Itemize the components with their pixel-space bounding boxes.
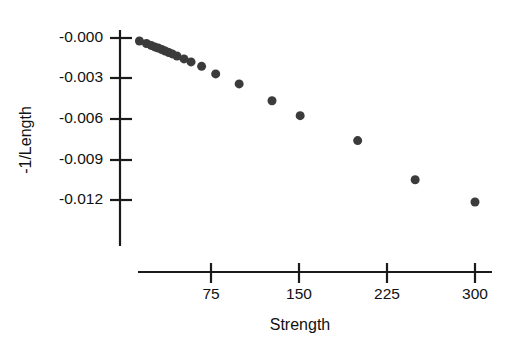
y-axis-title: -1/Length bbox=[17, 106, 34, 174]
x-axis-title: Strength bbox=[270, 316, 330, 333]
y-tick-label: -0.000 bbox=[59, 28, 103, 45]
data-point-layer bbox=[135, 36, 480, 206]
y-axis-tick-labels: -0.000 -0.003 -0.006 -0.009 -0.012 bbox=[59, 28, 103, 207]
y-tick-label: -0.009 bbox=[59, 150, 103, 167]
chart-figure: -0.000 -0.003 -0.006 -0.009 -0.012 -1/Le… bbox=[0, 0, 507, 348]
y-axis-group: -0.000 -0.003 -0.006 -0.009 -0.012 -1/Le… bbox=[17, 28, 132, 246]
data-point bbox=[211, 69, 220, 78]
data-point bbox=[235, 79, 244, 88]
x-tick-label: 150 bbox=[286, 285, 312, 302]
x-tick-label: 225 bbox=[374, 285, 400, 302]
data-point bbox=[353, 136, 362, 145]
y-tick-label: -0.012 bbox=[59, 190, 103, 207]
data-point bbox=[268, 96, 277, 105]
data-point bbox=[411, 175, 420, 184]
x-axis-group: 75 150 225 300 Strength bbox=[138, 263, 492, 333]
scatter-plot-svg: -0.000 -0.003 -0.006 -0.009 -0.012 -1/Le… bbox=[0, 0, 507, 348]
x-tick-label: 75 bbox=[202, 285, 219, 302]
x-axis-tick-labels: 75 150 225 300 bbox=[202, 285, 488, 302]
data-point bbox=[197, 62, 206, 71]
x-tick-label: 300 bbox=[462, 285, 488, 302]
y-tick-label: -0.003 bbox=[59, 68, 103, 85]
data-point bbox=[296, 111, 305, 120]
y-tick-label: -0.006 bbox=[59, 109, 103, 126]
data-point bbox=[187, 57, 196, 66]
data-point bbox=[471, 198, 480, 207]
